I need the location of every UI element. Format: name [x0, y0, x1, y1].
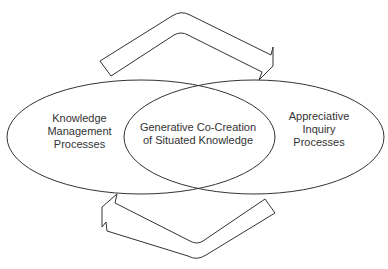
appreciative-inquiry-label: Appreciative Inquiry Processes [280, 110, 358, 149]
label-line: Processes [280, 136, 358, 149]
top-cycle-arrow-icon [100, 13, 273, 80]
label-line: Processes [42, 138, 117, 151]
label-line: of Situated Knowledge [136, 134, 260, 147]
generative-co-creation-label: Generative Co-Creation of Situated Knowl… [136, 121, 260, 147]
knowledge-management-label: Knowledge Management Processes [42, 112, 117, 151]
label-line: Appreciative [280, 110, 358, 123]
bottom-cycle-arrow-icon [102, 194, 275, 258]
label-line: Generative Co-Creation [136, 121, 260, 134]
label-line: Knowledge [42, 112, 117, 125]
label-line: Management [42, 125, 117, 138]
label-line: Inquiry [280, 123, 358, 136]
